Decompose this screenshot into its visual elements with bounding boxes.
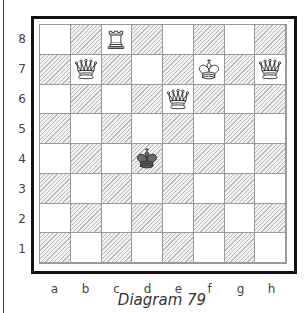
square-g4[interactable]: [225, 144, 256, 174]
black-king-icon[interactable]: [134, 145, 160, 171]
square-f3[interactable]: [194, 174, 225, 204]
square-c2[interactable]: [102, 204, 133, 234]
square-f4[interactable]: [194, 144, 225, 174]
square-g7[interactable]: [225, 55, 256, 85]
square-e6[interactable]: [163, 85, 194, 115]
square-b8[interactable]: [71, 25, 102, 55]
square-f1[interactable]: [194, 233, 225, 263]
square-a7[interactable]: [40, 55, 71, 85]
square-h3[interactable]: [255, 174, 286, 204]
square-c4[interactable]: [102, 144, 133, 174]
chess-board: [39, 24, 287, 264]
diagram-caption: Diagram 79: [0, 291, 306, 309]
square-h7[interactable]: [255, 55, 286, 85]
square-b2[interactable]: [71, 204, 102, 234]
square-e7[interactable]: [163, 55, 194, 85]
square-f5[interactable]: [194, 114, 225, 144]
square-e5[interactable]: [163, 114, 194, 144]
square-a3[interactable]: [40, 174, 71, 204]
square-c3[interactable]: [102, 174, 133, 204]
square-h8[interactable]: [255, 25, 286, 55]
rank-label-7: 7: [16, 62, 28, 76]
square-f6[interactable]: [194, 85, 225, 115]
square-f2[interactable]: [194, 204, 225, 234]
square-f7[interactable]: [194, 55, 225, 85]
white-rook-icon[interactable]: [103, 26, 129, 52]
square-e3[interactable]: [163, 174, 194, 204]
white-queen-icon[interactable]: [73, 56, 99, 82]
white-king-icon[interactable]: [196, 56, 222, 82]
square-e8[interactable]: [163, 25, 194, 55]
square-b1[interactable]: [71, 233, 102, 263]
square-a8[interactable]: [40, 25, 71, 55]
rank-label-5: 5: [16, 122, 28, 136]
square-c6[interactable]: [102, 85, 133, 115]
white-queen-icon[interactable]: [165, 86, 191, 112]
page-margin-line: [3, 0, 4, 313]
square-b5[interactable]: [71, 114, 102, 144]
square-g8[interactable]: [225, 25, 256, 55]
square-h4[interactable]: [255, 144, 286, 174]
rank-label-4: 4: [16, 152, 28, 166]
rank-label-3: 3: [16, 182, 28, 196]
square-a6[interactable]: [40, 85, 71, 115]
square-h5[interactable]: [255, 114, 286, 144]
square-h1[interactable]: [255, 233, 286, 263]
square-d2[interactable]: [132, 204, 163, 234]
white-queen-icon[interactable]: [257, 56, 283, 82]
square-d4[interactable]: [132, 144, 163, 174]
square-e4[interactable]: [163, 144, 194, 174]
square-b7[interactable]: [71, 55, 102, 85]
square-e2[interactable]: [163, 204, 194, 234]
square-c1[interactable]: [102, 233, 133, 263]
square-d7[interactable]: [132, 55, 163, 85]
square-a5[interactable]: [40, 114, 71, 144]
rank-label-2: 2: [16, 212, 28, 226]
rank-label-8: 8: [16, 32, 28, 46]
square-b4[interactable]: [71, 144, 102, 174]
square-a2[interactable]: [40, 204, 71, 234]
square-a1[interactable]: [40, 233, 71, 263]
square-c7[interactable]: [102, 55, 133, 85]
square-g3[interactable]: [225, 174, 256, 204]
square-d3[interactable]: [132, 174, 163, 204]
square-h2[interactable]: [255, 204, 286, 234]
square-f8[interactable]: [194, 25, 225, 55]
square-g6[interactable]: [225, 85, 256, 115]
square-c8[interactable]: [102, 25, 133, 55]
square-g5[interactable]: [225, 114, 256, 144]
square-b3[interactable]: [71, 174, 102, 204]
rank-label-1: 1: [16, 242, 28, 256]
square-d1[interactable]: [132, 233, 163, 263]
square-e1[interactable]: [163, 233, 194, 263]
square-b6[interactable]: [71, 85, 102, 115]
square-d8[interactable]: [132, 25, 163, 55]
square-d6[interactable]: [132, 85, 163, 115]
square-a4[interactable]: [40, 144, 71, 174]
square-g2[interactable]: [225, 204, 256, 234]
square-c5[interactable]: [102, 114, 133, 144]
square-h6[interactable]: [255, 85, 286, 115]
square-d5[interactable]: [132, 114, 163, 144]
square-g1[interactable]: [225, 233, 256, 263]
rank-label-6: 6: [16, 92, 28, 106]
